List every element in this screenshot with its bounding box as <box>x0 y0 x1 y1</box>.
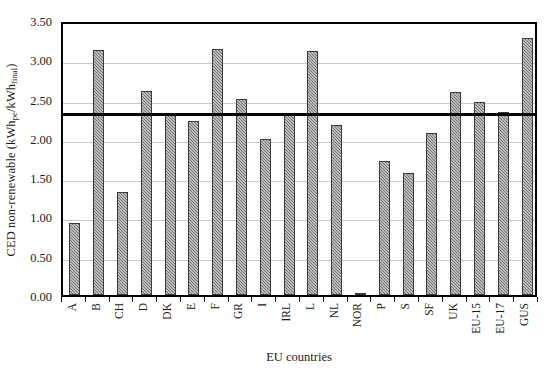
x-tickmark <box>394 297 395 302</box>
x-tick-label: UK <box>448 303 460 320</box>
x-tickmark <box>180 297 181 302</box>
x-label-cell: P <box>370 303 394 347</box>
x-label-cell: GUS <box>513 303 537 347</box>
x-tickmark <box>370 297 371 302</box>
y-tick-label: 1.00 <box>30 212 52 225</box>
x-label-cell: I <box>251 303 275 347</box>
bar-l <box>307 51 318 295</box>
x-axis-title: EU countries <box>61 350 537 365</box>
x-label-cell: S <box>394 303 418 347</box>
x-label-cell: D <box>132 303 156 347</box>
x-tickmark <box>418 297 419 302</box>
bar-series <box>63 24 535 295</box>
x-label-cell: E <box>180 303 204 347</box>
x-label-cell: EU-15 <box>466 303 490 347</box>
y-tick-label: 2.50 <box>30 94 52 107</box>
bar-nl <box>331 125 342 296</box>
x-tickmark <box>537 297 538 302</box>
x-tick-label: EU-17 <box>496 303 508 334</box>
y-tick-label: 1.50 <box>30 173 52 186</box>
y-tick-label: 2.00 <box>30 134 52 147</box>
x-tickmark <box>109 297 110 302</box>
x-tick-label: GR <box>234 303 246 319</box>
x-tick-label: IRL <box>281 303 293 322</box>
bar-a <box>69 223 80 295</box>
bar-dk <box>165 115 176 295</box>
bar-s <box>403 173 414 295</box>
y-axis-title-text: CED non-renewable (kWhpe/kWhfinal) <box>4 63 19 256</box>
x-label-cell: EU-17 <box>489 303 513 347</box>
x-tickmark <box>228 297 229 302</box>
y-tick-label: 3.50 <box>30 16 52 29</box>
bar-e <box>188 121 199 295</box>
x-axis-labels: ABCHDDKEFGRIIRLLNLNORPSSFUKEU-15EU-17GUS <box>61 303 537 347</box>
x-label-cell: F <box>204 303 228 347</box>
x-tick-label: B <box>91 303 103 311</box>
bar-gr <box>236 99 247 295</box>
chart-figure: CED non-renewable (kWhpe/kWhfinal) 0.000… <box>0 0 560 371</box>
x-tick-label: DK <box>162 303 174 320</box>
x-tickmark <box>347 297 348 302</box>
x-tick-label: F <box>210 303 222 309</box>
x-tickmark <box>204 297 205 302</box>
x-tick-label: SF <box>424 303 436 316</box>
bar-eu-17 <box>498 112 509 295</box>
bar-irl <box>284 114 295 296</box>
x-tickmark <box>275 297 276 302</box>
x-label-cell: L <box>299 303 323 347</box>
x-label-cell: CH <box>109 303 133 347</box>
x-tick-label: L <box>305 303 317 310</box>
plot-area <box>61 22 537 297</box>
bar-eu-15 <box>474 102 485 295</box>
x-tickmark <box>442 297 443 302</box>
y-axis-ticks: 0.000.501.001.502.002.503.003.50 <box>18 22 56 297</box>
x-tick-label: E <box>186 303 198 310</box>
x-label-cell: B <box>85 303 109 347</box>
bar-d <box>141 91 152 295</box>
x-label-cell: A <box>61 303 85 347</box>
x-tick-label: NL <box>329 303 341 318</box>
bar-ch <box>117 192 128 295</box>
bar-f <box>212 49 223 295</box>
reference-line <box>63 113 535 116</box>
x-tick-label: D <box>139 303 151 311</box>
x-tick-label: P <box>377 303 389 309</box>
x-tickmark <box>299 297 300 302</box>
y-tick-label: 0.50 <box>30 251 52 264</box>
x-tickmark <box>489 297 490 302</box>
bar-uk <box>450 92 461 295</box>
x-tickmark <box>513 297 514 302</box>
x-label-cell: IRL <box>275 303 299 347</box>
bar-sf <box>426 133 437 295</box>
bar-gus <box>522 38 533 295</box>
x-tickmark <box>156 297 157 302</box>
x-tick-label: CH <box>115 303 127 319</box>
x-label-cell: GR <box>228 303 252 347</box>
x-tickmark <box>132 297 133 302</box>
bar-p <box>379 161 390 295</box>
x-label-cell: NL <box>323 303 347 347</box>
x-tickmark <box>251 297 252 302</box>
x-tickmark <box>323 297 324 302</box>
y-tick-label: 0.00 <box>30 291 52 304</box>
x-label-cell: SF <box>418 303 442 347</box>
x-label-cell: DK <box>156 303 180 347</box>
y-tick-label: 3.00 <box>30 55 52 68</box>
bar-b <box>93 50 104 295</box>
x-tickmark <box>466 297 467 302</box>
bar-nor <box>355 293 366 295</box>
x-tick-label: S <box>400 303 412 309</box>
x-tick-label: EU-15 <box>472 303 484 334</box>
x-tickmark <box>85 297 86 302</box>
x-tick-label: GUS <box>519 303 531 326</box>
bar-i <box>260 139 271 295</box>
x-tickmark <box>61 297 62 302</box>
x-tick-label: A <box>67 303 79 311</box>
x-label-cell: NOR <box>347 303 371 347</box>
x-tick-label: NOR <box>353 303 365 327</box>
x-label-cell: UK <box>442 303 466 347</box>
x-tick-label: I <box>258 303 270 307</box>
